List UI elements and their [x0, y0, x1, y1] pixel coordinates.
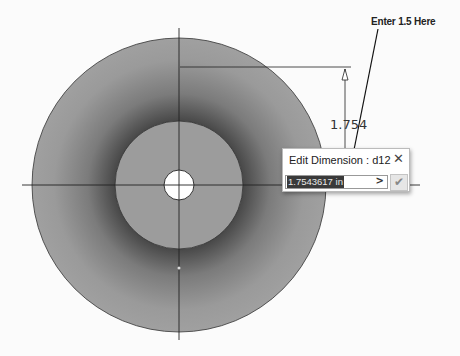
close-icon[interactable]: ✕	[393, 151, 404, 166]
annotation-label: Enter 1.5 Here	[371, 16, 435, 27]
input-selected-text[interactable]: 1.7543617 in	[287, 176, 344, 188]
expand-icon[interactable]: >	[376, 175, 384, 186]
ok-checkmark-button[interactable]: ✔	[390, 174, 408, 191]
dimension-value[interactable]: 1.754	[330, 117, 367, 132]
sketch-point[interactable]	[178, 267, 181, 270]
dimension-value-input[interactable]: 1.7543617 in >	[285, 175, 388, 189]
edit-dimension-dialog: Edit Dimension : d12 ✕ 1.7543617 in > ✔	[282, 148, 410, 192]
dialog-title: Edit Dimension : d12	[289, 154, 391, 166]
